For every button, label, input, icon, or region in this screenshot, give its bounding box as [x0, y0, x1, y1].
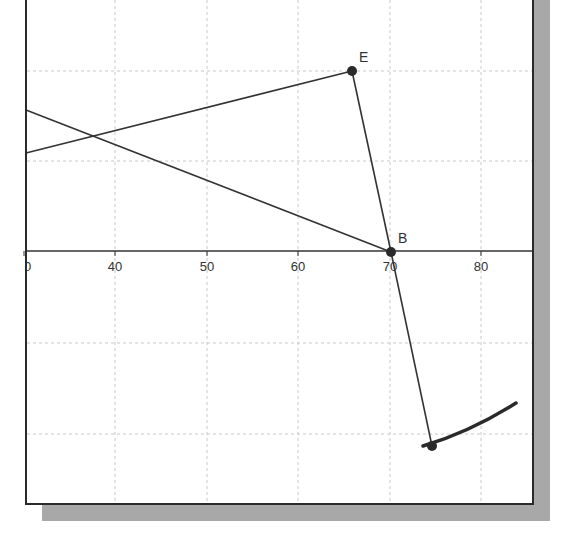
point-c[interactable] [427, 441, 437, 451]
frame-shadow-bottom [42, 504, 550, 521]
point-b[interactable] [386, 247, 396, 257]
plot-area[interactable] [26, 0, 533, 504]
x-tick-label: 80 [474, 259, 488, 274]
point-e[interactable] [347, 66, 357, 76]
x-tick-label: 60 [291, 259, 305, 274]
point-label-e: E [359, 49, 368, 65]
geometry-canvas[interactable]: 304050607080 EB [0, 0, 563, 543]
frame-shadow-right [533, 0, 550, 521]
x-tick-label: 50 [200, 259, 214, 274]
point-label-b: B [398, 230, 407, 246]
x-tick-label: 30 [17, 259, 31, 274]
x-tick-label: 40 [108, 259, 122, 274]
